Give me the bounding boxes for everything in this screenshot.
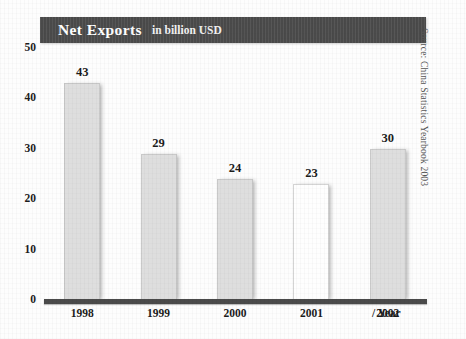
bar-2000 — [217, 179, 253, 300]
source-note: Source: China Statistics Yearbook 2003 — [419, 28, 429, 186]
chart-title-banner: Net Exports in billion USD — [40, 17, 426, 43]
bar-1998 — [64, 83, 100, 300]
x-tick-label-1999: 1999 — [124, 307, 194, 319]
bar-value-label: 24 — [217, 161, 253, 176]
bar-value-label: 23 — [293, 166, 329, 181]
y-tick-label: 0 — [8, 293, 36, 305]
chart-title: Net Exports — [58, 21, 142, 39]
bar-value-label: 30 — [370, 131, 406, 146]
bar-1999 — [141, 154, 177, 300]
chart-figure: Net Exports in billion USD 4329242330 19… — [0, 0, 466, 339]
y-tick-label: 10 — [8, 243, 36, 255]
x-axis-baseline — [44, 299, 427, 304]
y-tick-label: 50 — [8, 41, 36, 53]
x-tick-label-1998: 1998 — [47, 307, 117, 319]
bar-value-label: 43 — [64, 65, 100, 80]
chart-subtitle: in billion USD — [152, 24, 222, 36]
bar-2002 — [370, 149, 406, 300]
bar-value-label: 29 — [141, 136, 177, 151]
y-tick-label: 30 — [8, 142, 36, 154]
y-tick-label: 40 — [8, 91, 36, 103]
plot-area: 4329242330 — [44, 48, 426, 300]
x-axis-caption: / Year — [372, 307, 401, 319]
x-tick-label-2000: 2000 — [200, 307, 270, 319]
bar-2001 — [293, 184, 329, 300]
x-tick-label-2001: 2001 — [276, 307, 346, 319]
y-tick-label: 20 — [8, 192, 36, 204]
